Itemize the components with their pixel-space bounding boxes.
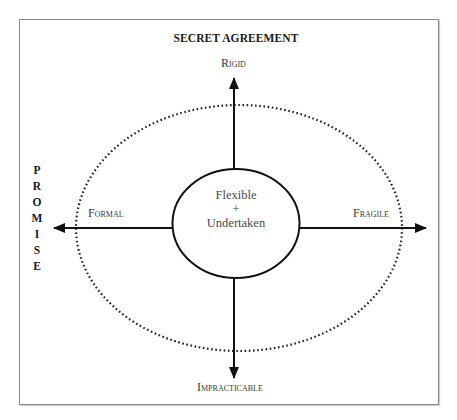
center-label: Flexible + Undertaken	[172, 188, 300, 230]
promise-letter: I	[35, 226, 39, 242]
promise-letter: S	[34, 242, 40, 258]
promise-vertical-label: P R O M I S E	[30, 162, 44, 274]
center-label-plus: +	[172, 202, 300, 216]
promise-letter: M	[32, 210, 43, 226]
center-label-line3: Undertaken	[172, 216, 300, 230]
axis-label-fragile: Fragile	[353, 207, 389, 219]
promise-letter: P	[33, 162, 40, 178]
diagram-title: SECRET AGREEMENT	[0, 32, 457, 44]
axis-label-impracticable: Impracticable	[197, 381, 263, 393]
promise-letter: E	[33, 258, 41, 274]
axis-label-formal: Formal	[88, 207, 124, 219]
promise-letter: O	[33, 194, 42, 210]
promise-letter: R	[33, 178, 41, 194]
axis-label-rigid: Rigid	[221, 57, 246, 69]
center-label-line1: Flexible	[172, 188, 300, 202]
